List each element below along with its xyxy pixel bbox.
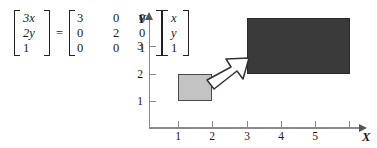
y-tick-label: 3 [129, 40, 143, 52]
block-arrow-shape [207, 58, 249, 89]
target-rectangle [247, 18, 350, 74]
x-axis-label: X [362, 130, 370, 145]
x-tick [281, 121, 282, 127]
y-tick [150, 46, 156, 47]
y-tick-label: 1 [129, 95, 143, 107]
x-tick-label: 4 [273, 130, 289, 142]
x-tick [315, 121, 316, 127]
x-axis [149, 127, 361, 129]
figure-canvas: 3x 2y 1 = 3 0 0 0 2 0 0 0 [0, 0, 377, 148]
y-axis-arrowhead-icon [145, 12, 153, 20]
y-tick-label: 2 [129, 68, 143, 80]
x-tick [247, 121, 248, 127]
x-tick-label: 1 [170, 130, 186, 142]
y-axis-label: Y [138, 12, 146, 27]
x-tick-label: 5 [307, 130, 323, 142]
x-tick [178, 121, 179, 127]
transform-arrow-icon [205, 54, 253, 94]
coordinate-plot: 1 2 3 4 5 1 2 3 X Y [0, 0, 377, 148]
y-tick [150, 74, 156, 75]
x-tick [349, 121, 350, 127]
y-tick [150, 101, 156, 102]
x-tick [212, 121, 213, 127]
x-tick-label: 2 [204, 130, 220, 142]
x-tick-label: 3 [239, 130, 255, 142]
